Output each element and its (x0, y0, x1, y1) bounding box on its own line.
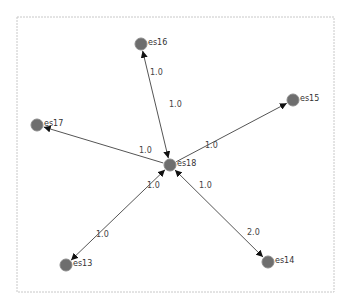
edge-weight-label: 1.0 (96, 230, 109, 239)
node-label: es13 (73, 259, 92, 268)
node-es13[interactable]: es13 (60, 259, 92, 271)
node-circle-icon[interactable] (135, 38, 147, 50)
node-label: es18 (177, 159, 196, 168)
node-es14[interactable]: es14 (262, 256, 294, 268)
edge-es18-es15 (176, 103, 287, 161)
node-es16[interactable]: es16 (135, 38, 167, 50)
node-es18[interactable]: es18 (164, 159, 196, 171)
node-es15[interactable]: es15 (287, 94, 319, 106)
edge-es18-es16 (143, 51, 169, 158)
nodes-layer: es18es16es17es15es13es14 (31, 38, 319, 271)
node-circle-icon[interactable] (262, 256, 274, 268)
graph-canvas: 1.01.01.01.01.01.01.02.0 es18es16es17es1… (0, 0, 352, 306)
edge-es18-es14 (175, 170, 263, 257)
node-circle-icon[interactable] (164, 159, 176, 171)
edge-weight-label: 1.0 (199, 181, 212, 190)
node-circle-icon[interactable] (31, 119, 43, 131)
edge-weight-label: 1.0 (147, 181, 160, 190)
edge-weight-label: 1.0 (169, 100, 182, 109)
edge-weight-label: 1.0 (139, 146, 152, 155)
node-es17[interactable]: es17 (31, 119, 63, 131)
node-label: es17 (44, 119, 63, 128)
edge-weight-label: 2.0 (247, 228, 260, 237)
edge-weight-label: 1.0 (205, 141, 218, 150)
graph-frame (17, 17, 334, 292)
node-circle-icon[interactable] (60, 259, 72, 271)
node-label: es16 (148, 38, 167, 47)
edge-es18-es17 (44, 127, 164, 163)
node-label: es15 (300, 94, 319, 103)
node-circle-icon[interactable] (287, 94, 299, 106)
node-label: es14 (275, 256, 294, 265)
edge-labels-layer: 1.01.01.01.01.01.01.02.0 (96, 68, 260, 239)
edge-weight-label: 1.0 (150, 68, 163, 77)
